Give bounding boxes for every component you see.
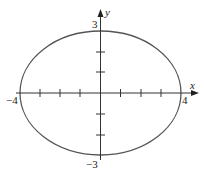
y-min-label: −3 — [86, 158, 98, 170]
y-axis-arrow-icon — [98, 9, 104, 17]
y-max-label: 3 — [92, 18, 98, 30]
y-axis-label: y — [104, 6, 110, 18]
x-max-label: 4 — [182, 94, 188, 106]
x-axis-label: x — [189, 79, 195, 91]
x-min-label: −4 — [6, 94, 18, 106]
ellipse-chart: y x 3 −3 −4 4 — [0, 0, 205, 181]
